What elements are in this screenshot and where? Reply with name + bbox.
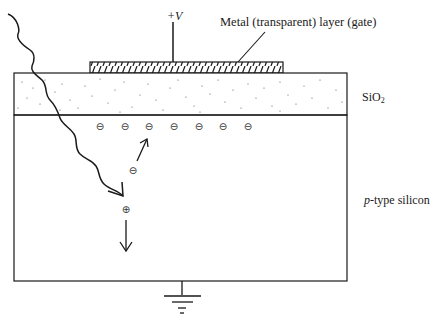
- hole-charge: ⊕: [122, 205, 130, 215]
- electron-charge: ⊖: [129, 166, 137, 176]
- inversion-charge: ⊖: [219, 122, 227, 132]
- substrate-label: p-type silicon: [364, 194, 430, 206]
- voltage-label: +V: [167, 10, 182, 22]
- inversion-charge: ⊖: [121, 122, 129, 132]
- oxide-layer: [14, 73, 347, 115]
- oxide-label: SiO2: [362, 91, 385, 103]
- gate-leader-line: [238, 32, 265, 62]
- inversion-charge: ⊖: [244, 122, 252, 132]
- p-type-substrate: [14, 115, 347, 281]
- inversion-charge: ⊖: [96, 122, 104, 132]
- gate-label: Metal (transparent) layer (gate): [220, 16, 377, 29]
- inversion-charge: ⊖: [170, 122, 178, 132]
- inversion-charge: ⊖: [145, 122, 153, 132]
- mos-diagram: +V Metal (transparent) layer (gate) SiO2…: [0, 0, 436, 326]
- inversion-charge: ⊖: [195, 122, 203, 132]
- diagram-drawing: [0, 0, 436, 326]
- metal-gate: [90, 62, 283, 73]
